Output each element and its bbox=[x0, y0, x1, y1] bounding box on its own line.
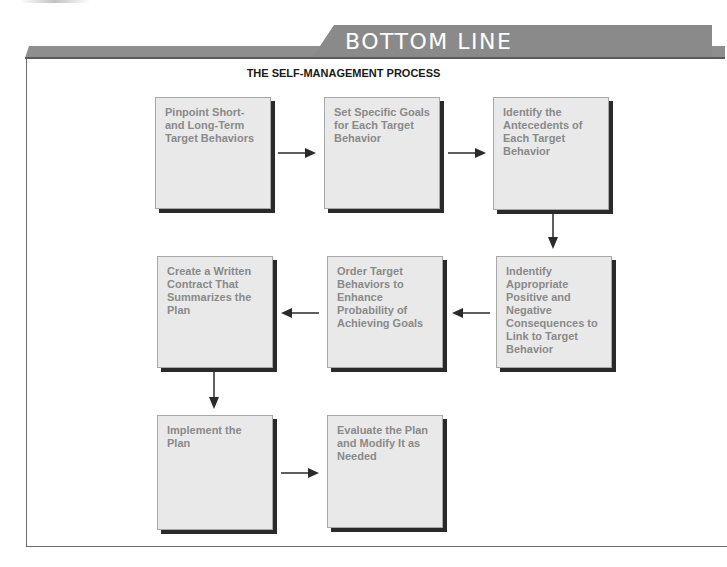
step-label: Create a Written Contract That Summarize… bbox=[167, 265, 251, 316]
step-pinpoint-behaviors: Pinpoint Short- and Long-Term Target Beh… bbox=[155, 97, 271, 209]
arrow-left-icon bbox=[281, 307, 321, 319]
step-label: Identify the Antecedents of Each Target … bbox=[503, 106, 582, 157]
top-edge-artifact bbox=[20, 0, 90, 3]
step-identify-consequences: Indentify Appropriate Positive and Negat… bbox=[496, 256, 612, 368]
step-identify-antecedents: Identify the Antecedents of Each Target … bbox=[493, 97, 609, 210]
step-label: Implement the Plan bbox=[167, 424, 242, 449]
step-label: Set Specific Goals for Each Target Behav… bbox=[334, 106, 430, 144]
step-label: Evaluate the Plan and Modify It as Neede… bbox=[337, 424, 428, 462]
step-implement-plan: Implement the Plan bbox=[157, 415, 273, 530]
step-label: Order Target Behaviors to Enhance Probab… bbox=[337, 265, 423, 329]
arrow-left-icon bbox=[452, 307, 492, 319]
step-written-contract: Create a Written Contract That Summarize… bbox=[157, 256, 273, 368]
arrow-right-icon bbox=[278, 147, 318, 159]
diagram-title: THE SELF-MANAGEMENT PROCESS bbox=[0, 67, 687, 79]
step-label: Indentify Appropriate Positive and Negat… bbox=[506, 265, 598, 355]
arrow-down-icon bbox=[208, 372, 220, 410]
arrow-right-icon bbox=[281, 467, 321, 479]
step-evaluate-plan: Evaluate the Plan and Modify It as Neede… bbox=[327, 415, 443, 528]
step-order-behaviors: Order Target Behaviors to Enhance Probab… bbox=[327, 256, 443, 368]
arrow-right-icon bbox=[448, 147, 488, 159]
banner-title: BOTTOM LINE bbox=[345, 27, 512, 57]
arrow-down-icon bbox=[547, 212, 559, 250]
step-label: Pinpoint Short- and Long-Term Target Beh… bbox=[165, 106, 254, 144]
step-set-goals: Set Specific Goals for Each Target Behav… bbox=[324, 97, 440, 209]
